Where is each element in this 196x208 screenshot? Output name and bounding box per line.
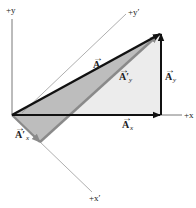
x-prime-axis-label: +x′ bbox=[89, 193, 101, 203]
svg-text:A′: A′ bbox=[15, 129, 25, 140]
y-prime-axis-label: +y′ bbox=[128, 7, 140, 17]
svg-text:A: A bbox=[165, 71, 173, 82]
x-axis-label: +x bbox=[184, 110, 194, 120]
svg-text:A: A bbox=[93, 59, 101, 70]
svg-text:y: y bbox=[172, 76, 177, 84]
label-a-y: → A y bbox=[165, 64, 177, 84]
svg-text:x: x bbox=[25, 134, 30, 142]
svg-text:A′: A′ bbox=[119, 71, 129, 82]
svg-text:A: A bbox=[122, 119, 130, 130]
svg-text:x: x bbox=[129, 124, 134, 132]
y-axis-label: +y bbox=[6, 5, 16, 15]
vector-diagram: +y +x +y′ +x′ → A → A′ y → A y → A x → A… bbox=[0, 0, 196, 208]
